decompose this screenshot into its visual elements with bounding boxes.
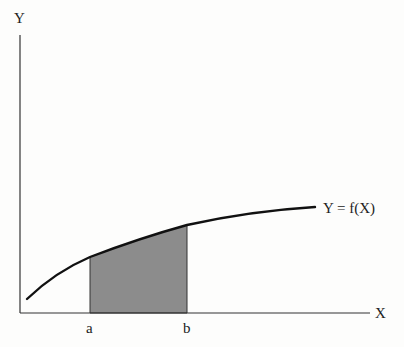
curve-label: Y = f(X) [323, 200, 375, 217]
y-axis-label: Y [14, 10, 25, 26]
lower-bound-label: a [86, 320, 93, 336]
shaded-area [90, 225, 187, 313]
integral-diagram: Y X a b Y = f(X) [0, 0, 404, 347]
x-axis-label: X [375, 305, 386, 321]
upper-bound-label: b [183, 320, 191, 336]
